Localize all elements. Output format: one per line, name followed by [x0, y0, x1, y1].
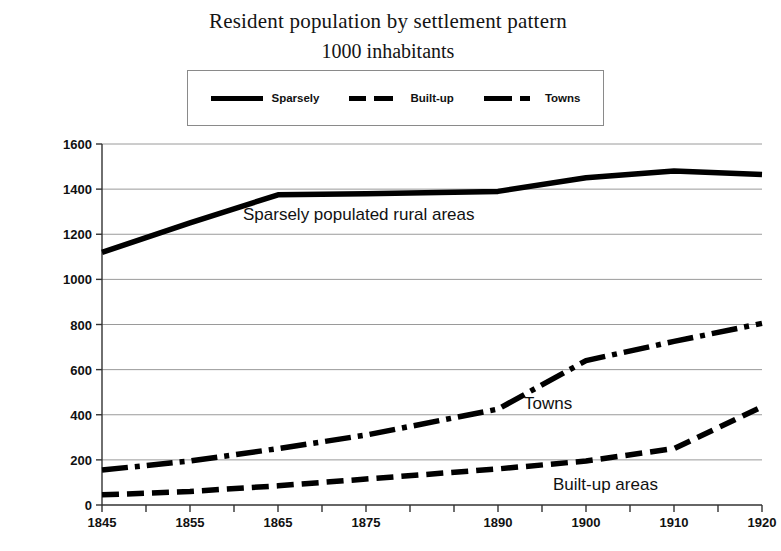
y-tick-label: 1400	[40, 182, 92, 197]
x-tick-label: 1865	[248, 515, 308, 530]
x-tick-label: 1855	[160, 515, 220, 530]
x-tick-label: 1875	[336, 515, 396, 530]
y-tick-label: 200	[40, 452, 92, 467]
x-tick-label: 1890	[468, 515, 528, 530]
x-tick-label: 1910	[644, 515, 704, 530]
x-tick-label: 1900	[556, 515, 616, 530]
y-tick-label: 400	[40, 407, 92, 422]
y-tick-label: 0	[40, 498, 92, 513]
annotation-builtup: Built-up areas	[553, 475, 658, 495]
x-tick-label: 1920	[732, 515, 781, 530]
x-tick-label: 1845	[72, 515, 132, 530]
annotation-sparsely: Sparsely populated rural areas	[243, 205, 475, 225]
y-tick-label: 1000	[40, 272, 92, 287]
y-tick-label: 800	[40, 317, 92, 332]
y-tick-marks	[96, 144, 102, 505]
y-tick-label: 600	[40, 362, 92, 377]
y-tick-label: 1600	[40, 137, 92, 152]
annotation-towns: Towns	[524, 394, 572, 414]
y-tick-label: 1200	[40, 227, 92, 242]
x-tick-marks	[102, 505, 762, 512]
